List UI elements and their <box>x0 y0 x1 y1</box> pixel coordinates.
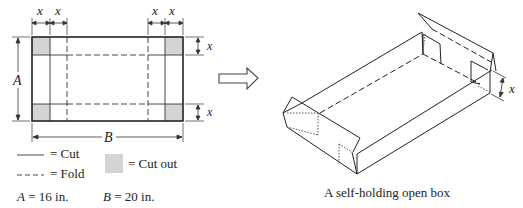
a-var: A <box>17 189 25 204</box>
b-value-rest: = 20 in. <box>111 189 154 204</box>
x-label: x <box>54 3 61 18</box>
x-label: x <box>206 39 213 53</box>
x-label: x <box>36 3 43 18</box>
x-label: x <box>206 105 213 119</box>
open-box-illustration <box>283 13 496 174</box>
fold-legend-label: = Fold <box>50 166 84 182</box>
hollow-right-arrow-icon <box>219 68 258 89</box>
cutout-bottom-left <box>32 104 50 121</box>
box-caption: A self-holding open box <box>324 185 450 201</box>
x-label: x <box>151 3 158 18</box>
cutout-top-right <box>165 37 183 55</box>
cutout-legend-label: = Cut out <box>128 156 177 172</box>
x-dimension-arrows-top <box>32 21 183 25</box>
box-x-label: x <box>508 81 515 96</box>
cutout-top-left <box>32 37 50 55</box>
a-label: A <box>12 73 22 88</box>
a-value: A = 16 in. <box>17 189 68 205</box>
cut-legend-label: = Cut <box>50 146 79 162</box>
x-dimension-arrows-right <box>196 38 200 120</box>
b-var: B <box>103 189 111 204</box>
fold-lines <box>67 37 148 121</box>
b-label: B <box>104 130 113 145</box>
box-x-dimension <box>491 71 506 101</box>
outer-cut-line <box>32 37 183 121</box>
b-value: B = 20 in. <box>103 189 154 205</box>
cutout-swatch <box>105 154 123 173</box>
a-value-rest: = 16 in. <box>25 189 68 204</box>
x-label: x <box>168 3 175 18</box>
cutout-bottom-right <box>165 104 183 121</box>
flat-pattern: x x x x x x A B <box>12 3 213 145</box>
